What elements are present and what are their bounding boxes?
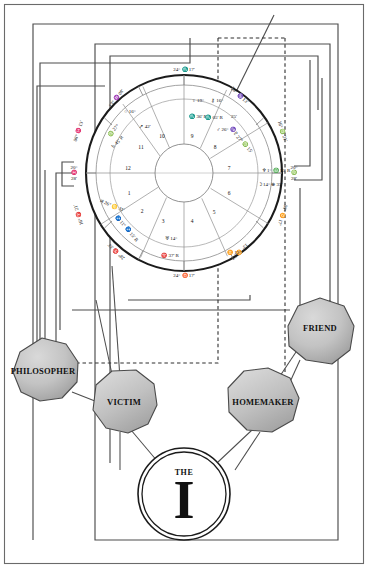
diagram-canvas: THE I PHILOSOPHER VICTIM HOMEMAKER FRIEN… bbox=[0, 0, 368, 568]
persona-label-philosopher: PHILOSOPHER bbox=[11, 366, 76, 376]
persona-label-homemaker: HOMEMAKER bbox=[232, 397, 293, 407]
persona-label-victim: VICTIM bbox=[107, 397, 141, 407]
ego-letter: I bbox=[173, 473, 194, 527]
persona-connectors bbox=[40, 266, 330, 470]
astrology-wheel bbox=[86, 75, 282, 271]
persona-label-friend: FRIEND bbox=[303, 323, 337, 333]
